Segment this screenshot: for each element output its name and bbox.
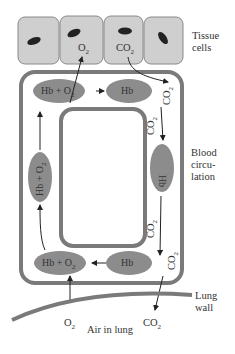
blood-circulation-label: Bloodcircu-lation <box>191 147 217 183</box>
co2-right-lower-label: CO2 <box>145 220 161 238</box>
air-in-lung-label: Air in lung <box>87 324 133 336</box>
lung-wall-label: Lungwall <box>195 290 217 314</box>
tissue-cells <box>18 16 183 64</box>
node-right-label: Hb <box>156 175 168 187</box>
node-top-right-label: Hb <box>121 85 133 97</box>
inner-vessel <box>61 109 145 246</box>
node-top-left-label: Hb + O2 <box>41 85 75 101</box>
lung-wall <box>12 294 192 320</box>
node-bottom-right-label: Hb <box>121 257 133 269</box>
co2-lung-label: CO2 <box>143 317 161 333</box>
co2-right-bottom-label: CO2 <box>166 252 182 270</box>
node-left-label: Hb + O2 <box>34 162 50 196</box>
co2-right-top-label: CO2 <box>161 87 177 105</box>
o2-lung-label: O2 <box>64 317 75 333</box>
node-bottom-left-label: Hb + O2 <box>42 257 76 273</box>
co2-tissue-label: CO2 <box>116 42 134 58</box>
co2-right-mid-label: CO2 <box>145 117 161 135</box>
tissue-cells-label: Tissuecells <box>192 30 219 54</box>
o2-tissue-label: O2 <box>78 42 89 58</box>
